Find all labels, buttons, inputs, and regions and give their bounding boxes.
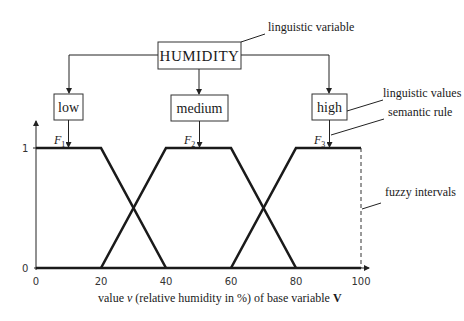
y-tick-label-1: 1 <box>22 143 28 154</box>
annotation-fuzzy-intervals: fuzzy intervals <box>385 185 456 199</box>
annotations: linguistic variable linguistic values se… <box>241 20 462 209</box>
annotation-linguistic-values: linguistic values <box>383 86 462 100</box>
connector-to-high <box>241 55 329 93</box>
leader-linguistic-values <box>347 100 383 111</box>
svg-text:100: 100 <box>351 276 370 287</box>
x-tick-labels: 0 20 40 60 80 100 <box>33 276 371 287</box>
mf-low <box>36 148 166 268</box>
annotation-semantic-rule: semantic rule <box>388 105 452 119</box>
membership-label-f3: F3 <box>313 133 325 149</box>
leader-semantic-rule <box>331 119 384 135</box>
linguistic-value-box-medium: medium <box>171 95 228 121</box>
membership-label-f2: F2 <box>183 133 195 149</box>
mf-high <box>231 148 361 268</box>
semantic-rule-arrows <box>69 120 330 147</box>
value-label-medium: medium <box>177 101 223 116</box>
membership-functions <box>36 148 361 268</box>
svg-text:80: 80 <box>290 276 303 287</box>
value-label-high: high <box>317 100 342 115</box>
annotation-linguistic-variable: linguistic variable <box>268 20 354 34</box>
svg-text:60: 60 <box>225 276 238 287</box>
membership-label-f1: F1 <box>53 133 65 149</box>
leader-linguistic-variable <box>241 34 265 42</box>
svg-text:40: 40 <box>160 276 173 287</box>
y-tick-label-0: 0 <box>22 263 28 274</box>
linguistic-value-box-low: low <box>54 94 83 120</box>
linguistic-variable-label: HUMIDITY <box>160 48 240 64</box>
linguistic-value-box-high: high <box>312 94 347 120</box>
leader-fuzzy-intervals <box>362 203 381 209</box>
mf-medium <box>101 148 296 268</box>
connector-to-low <box>69 55 158 93</box>
x-axis-label: value v (relative humidity in %) of base… <box>98 291 342 305</box>
svg-text:20: 20 <box>95 276 108 287</box>
linguistic-variable-box: HUMIDITY <box>158 42 241 69</box>
fuzzy-humidity-diagram: HUMIDITY low medium high F1 F2 F3 1 0 0 … <box>0 0 464 321</box>
value-label-low: low <box>58 100 80 115</box>
svg-text:0: 0 <box>33 276 39 287</box>
